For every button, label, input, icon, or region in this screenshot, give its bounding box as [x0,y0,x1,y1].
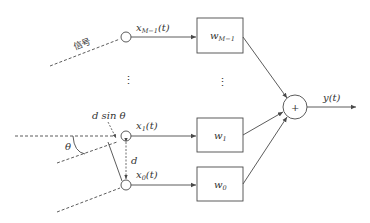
ellipsis-weights: ⋮ [217,76,228,89]
sensor-label-x1: x1(t) [136,120,158,133]
ellipsis-sensors: ⋮ [123,74,134,87]
incoming-signal-lower: θ d sin θ [15,110,126,212]
sensor-x0: x0(t) [121,169,196,190]
signal-label: 信号 [71,35,92,52]
sensor-label-x0: x0(t) [136,169,158,182]
weight-box-wM-1: wM−1 [197,18,287,98]
spacing-label: d [131,155,137,166]
incoming-signal-top: 信号 [50,35,120,66]
weight-box-w1: w1 [197,112,283,152]
angle-theta-label: θ [65,141,71,152]
output-label: y(t) [322,92,341,103]
path-difference-label: d sin θ [92,110,126,121]
sensor-xM-1: xM−1(t) [121,22,196,42]
summing-node: + y(t) [283,92,356,119]
sensor-label-xM-1: xM−1(t) [136,22,170,35]
sensor-x1: x1(t) [121,120,196,141]
plus-symbol: + [291,102,299,113]
beamformer-diagram: 信号 xM−1(t) wM−1 ⋮ ⋮ + y(t) θ d sin θ [0,0,370,223]
